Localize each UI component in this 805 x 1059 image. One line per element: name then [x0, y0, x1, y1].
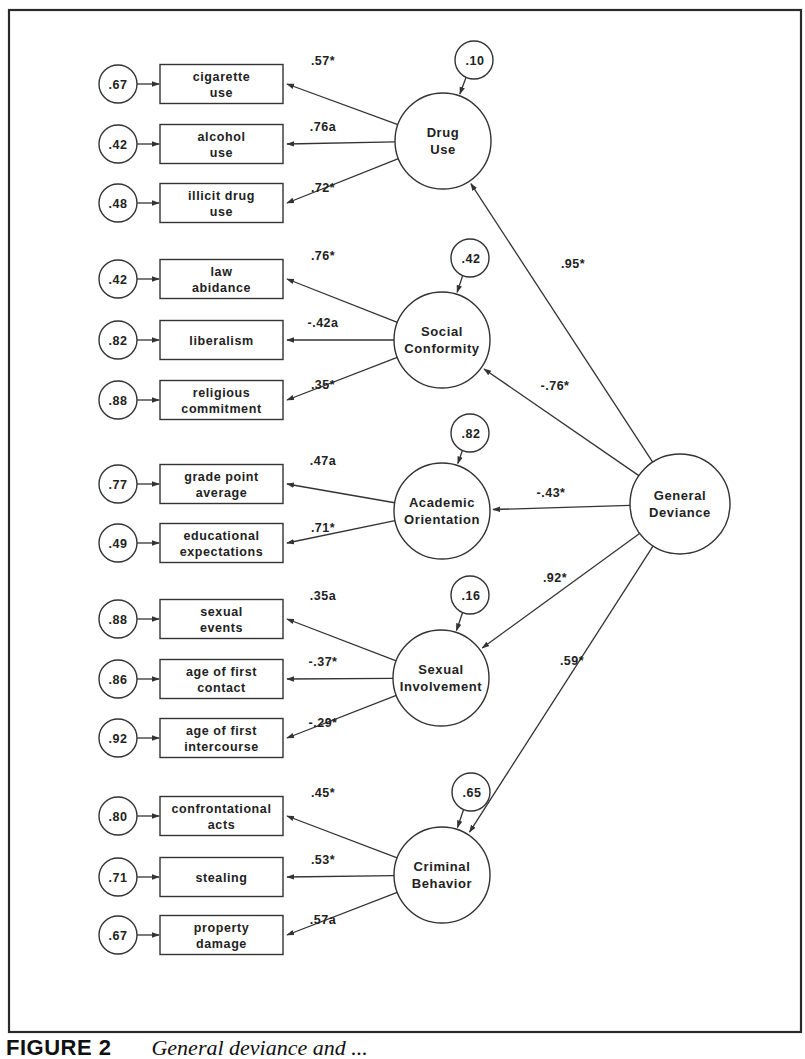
latent-circle: [394, 827, 490, 923]
indicator-age-of-first-contact: age of firstcontact.86: [99, 660, 283, 699]
error-value: .80: [109, 810, 128, 824]
latent-label: Behavior: [412, 876, 472, 891]
loading-arrow: [287, 678, 393, 679]
indicator-label: age of first: [186, 665, 257, 679]
error-value: .48: [109, 197, 128, 211]
indicator-label: use: [210, 86, 233, 100]
latent-circle: [394, 292, 490, 388]
indicator-label: use: [210, 146, 233, 160]
latent-label: Social: [421, 324, 463, 339]
disturbance-arrow: [457, 276, 463, 293]
loading-coefficient: .47a: [310, 454, 337, 468]
indicator-label: sexual: [200, 605, 243, 619]
indicator-label: acts: [208, 818, 235, 832]
latent-label: Conformity: [404, 341, 479, 356]
loading-coefficient: .57*: [311, 54, 335, 68]
latent-circle: [393, 630, 489, 726]
indicator-age-of-first-intercourse: age of firstintercourse.92: [99, 719, 283, 758]
general-path-arrow: [470, 546, 653, 832]
latent-label: Drug: [427, 125, 460, 140]
loading-coefficient: .35a: [310, 589, 337, 603]
latent-label: Academic: [409, 495, 475, 510]
latent-circle: [630, 454, 730, 554]
indicator-label: law: [211, 265, 233, 279]
indicator-illicit-drug-use: illicit druguse.48: [99, 184, 283, 223]
figure-label: FIGURE 2: [6, 1035, 111, 1059]
disturbance-arrow: [460, 77, 466, 94]
disturbance-value: .16: [462, 589, 481, 603]
indicator-label: average: [196, 486, 247, 500]
indicator-label: grade point: [184, 470, 259, 484]
indicator-label: stealing: [195, 871, 247, 885]
loading-coefficient: .45*: [311, 786, 335, 800]
diagram-nodes: GeneralDeviance.10DrugUsecigaretteuse.67…: [99, 41, 730, 955]
indicator-label: damage: [196, 937, 247, 951]
figure-title: General deviance and ...: [151, 1035, 367, 1059]
disturbance-value: .82: [462, 427, 481, 441]
error-value: .86: [109, 673, 128, 687]
general-path-arrow: [493, 505, 630, 509]
latent-general-deviance: GeneralDeviance: [630, 454, 730, 554]
latent-label: Involvement: [400, 679, 483, 694]
factor-drug-use: .10DrugUse: [395, 41, 493, 189]
indicator-label: events: [200, 621, 243, 635]
indicator-cigarette-use: cigaretteuse.67: [99, 65, 283, 104]
general-path-coefficient: .59*: [560, 654, 584, 668]
indicator-label: abidance: [192, 281, 251, 295]
loading-arrow: [287, 142, 395, 144]
disturbance-value: .42: [462, 252, 481, 266]
error-value: .67: [109, 929, 128, 943]
loading-coefficient: -.29*: [309, 716, 338, 730]
indicator-stealing: stealing.71: [99, 858, 283, 897]
indicator-label: contact: [197, 681, 246, 695]
loading-arrow: [287, 159, 398, 203]
loading-coefficient: .76a: [310, 120, 337, 134]
factor-social-conformity: .42SocialConformity: [394, 239, 490, 388]
loading-arrow: [287, 876, 394, 877]
figure-caption: FIGURE 2General deviance and ...: [6, 1036, 368, 1059]
disturbance-value: .65: [463, 786, 482, 800]
indicator-label: intercourse: [184, 740, 259, 754]
indicator-label: property: [194, 921, 250, 935]
indicator-label: liberalism: [189, 334, 253, 348]
general-path-coefficient: .92*: [543, 571, 567, 585]
loading-arrow: [287, 695, 396, 738]
loading-arrow: [287, 279, 397, 322]
loading-coefficient: -.42a: [308, 316, 340, 330]
error-value: .88: [109, 613, 128, 627]
loading-arrow: [287, 84, 398, 125]
indicator-property-damage: propertydamage.67: [99, 916, 283, 955]
error-value: .67: [109, 78, 128, 92]
error-value: .71: [109, 871, 128, 885]
loading-coefficient: .71*: [311, 521, 335, 535]
general-path-coefficient: .95*: [561, 257, 585, 271]
general-path-coefficient: -.76*: [541, 379, 570, 393]
error-value: .77: [109, 478, 128, 492]
indicator-label: illicit drug: [188, 189, 255, 203]
indicator-confrontational-acts: confrontationalacts.80: [99, 797, 283, 836]
indicator-label: commitment: [181, 402, 262, 416]
loading-coefficient: .72*: [311, 181, 335, 195]
loading-arrow: [287, 521, 395, 543]
error-value: .42: [109, 138, 128, 152]
indicator-label: cigarette: [193, 70, 251, 84]
indicator-label: age of first: [186, 724, 257, 738]
indicator-liberalism: liberalism.82: [99, 321, 283, 360]
loading-arrow: [287, 892, 397, 935]
error-value: .88: [109, 394, 128, 408]
loading-arrow: [287, 816, 397, 858]
indicator-label: alcohol: [198, 130, 246, 144]
indicator-sexual-events: sexualevents.88: [99, 600, 283, 639]
indicator-label: educational: [183, 529, 259, 543]
loading-coefficient: .57a: [310, 913, 337, 927]
error-value: .49: [109, 537, 128, 551]
indicator-law-abidance: lawabidance.42: [99, 260, 283, 299]
latent-label: Orientation: [404, 512, 480, 527]
loading-arrow: [287, 619, 396, 661]
error-value: .82: [109, 334, 128, 348]
loading-coefficient: .76*: [311, 249, 335, 263]
disturbance-arrow: [456, 613, 462, 631]
indicator-label: expectations: [180, 545, 264, 559]
indicator-label: confrontational: [172, 802, 272, 816]
